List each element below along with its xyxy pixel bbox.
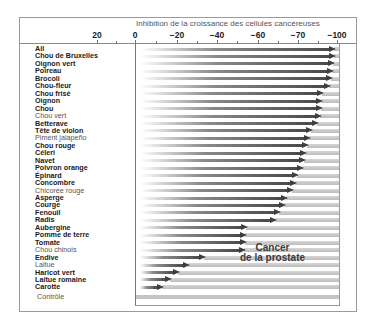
arrow-head-icon [312, 120, 319, 126]
remaining-bar [317, 122, 339, 126]
arrow-head-icon [300, 150, 307, 156]
arrow-head-icon [274, 209, 281, 215]
inhibition-arrow [140, 167, 297, 170]
remaining-bar [284, 203, 339, 207]
inhibition-arrow [140, 122, 312, 125]
x-minor-tick [237, 41, 238, 44]
inhibition-arrow [140, 278, 165, 281]
annotation-line-2: de la prostate [240, 253, 305, 263]
arrow-head-icon [324, 83, 331, 89]
inhibition-arrow [140, 241, 240, 244]
arrow-head-icon [241, 224, 248, 230]
inhibition-arrow [140, 219, 270, 222]
axis-title: Inhibition de la croissance des cellules… [136, 19, 356, 28]
x-tick-label: −20 [170, 30, 184, 40]
inhibition-arrow [140, 152, 300, 155]
arrow-head-icon [299, 157, 306, 163]
remaining-bar [320, 114, 339, 118]
x-minor-tick [156, 41, 157, 44]
arrow-head-icon [290, 180, 297, 186]
inhibition-arrow [140, 85, 324, 88]
x-tick-label: −100 [327, 30, 346, 40]
remaining-bar [279, 211, 339, 215]
remaining-bar [311, 129, 339, 133]
x-tick-label: 20 [92, 30, 101, 40]
arrow-head-icon [270, 217, 277, 223]
remaining-bar [246, 226, 339, 230]
remaining-bar [162, 285, 339, 289]
arrow-head-icon [304, 135, 311, 141]
inhibition-arrow [140, 70, 327, 73]
arrow-head-icon [157, 284, 164, 290]
inhibition-arrow [140, 144, 302, 147]
remaining-bar [295, 181, 339, 185]
inhibition-arrow [140, 256, 199, 259]
plot-right-edge [339, 44, 340, 306]
remaining-bar [245, 233, 339, 237]
remaining-bar [305, 151, 339, 155]
category-label: Carotte [35, 283, 60, 291]
zero-line [135, 44, 136, 306]
arrow-head-icon [287, 187, 294, 193]
inhibition-arrow [140, 92, 317, 95]
inhibition-arrow [140, 189, 287, 192]
arrow-head-icon [292, 172, 299, 178]
inhibition-arrow [140, 174, 292, 177]
inhibition-arrow [140, 62, 328, 65]
chart-annotation: Cancer de la prostate [240, 243, 305, 263]
inhibition-arrow [140, 234, 240, 237]
arrow-head-icon [306, 127, 313, 133]
inhibition-arrow [140, 182, 290, 185]
inhibition-arrow [140, 77, 326, 80]
arrow-head-icon [279, 202, 286, 208]
inhibition-arrow [140, 226, 241, 229]
inhibition-arrow [140, 197, 281, 200]
x-tick-label: −60 [251, 30, 265, 40]
x-tick-mark [337, 40, 338, 44]
inhibition-arrow [140, 107, 316, 110]
arrow-head-icon [329, 53, 336, 59]
x-tick-mark [97, 40, 98, 44]
arrow-head-icon [326, 75, 333, 81]
arrow-head-icon [315, 113, 322, 119]
x-tick-mark [298, 40, 299, 44]
axis-line [19, 43, 357, 44]
inhibition-arrow [140, 271, 173, 274]
x-tick-label: −40 [210, 30, 224, 40]
x-minor-tick [278, 41, 279, 44]
remaining-bar [304, 159, 339, 163]
remaining-bar [307, 144, 339, 148]
arrow-head-icon [317, 90, 324, 96]
control-bar [136, 295, 339, 299]
remaining-bar [302, 166, 339, 170]
remaining-bar [321, 99, 339, 103]
inhibition-arrow [140, 286, 157, 289]
inhibition-arrow [140, 249, 239, 252]
arrow-head-icon [327, 68, 334, 74]
arrow-head-icon [316, 98, 323, 104]
arrow-head-icon [302, 142, 309, 148]
x-minor-tick [197, 41, 198, 44]
arrow-head-icon [183, 262, 190, 268]
x-minor-tick [116, 41, 117, 44]
x-minor-tick [318, 41, 319, 44]
remaining-bar [297, 174, 339, 178]
remaining-bar [309, 136, 339, 140]
x-tick-mark [258, 40, 259, 44]
remaining-bar [322, 92, 339, 96]
inhibition-arrow [140, 100, 316, 103]
remaining-bar [321, 107, 339, 111]
inhibition-arrow [140, 55, 329, 58]
x-tick-mark [217, 40, 218, 44]
remaining-bar [286, 196, 339, 200]
x-tick-mark [177, 40, 178, 44]
x-tick-label: 0 [133, 30, 138, 40]
inhibition-arrow [140, 211, 274, 214]
remaining-bar [170, 278, 339, 282]
inhibition-arrow [140, 204, 279, 207]
plot-bottom-edge [135, 305, 340, 306]
arrow-head-icon [329, 46, 336, 52]
arrow-head-icon [240, 232, 247, 238]
arrow-head-icon [316, 105, 323, 111]
arrow-head-icon [281, 195, 288, 201]
